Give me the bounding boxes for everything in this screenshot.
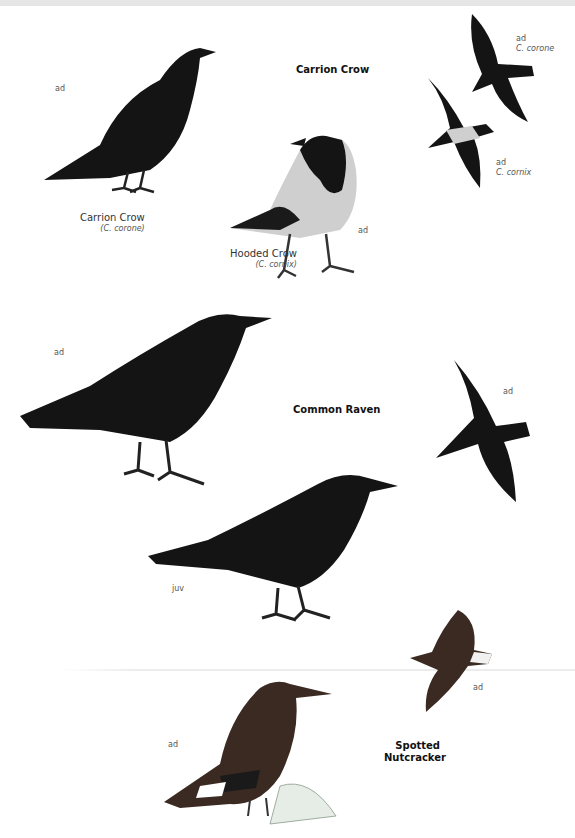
section-title-carrion-crow: Carrion Crow xyxy=(296,64,369,76)
age-label: ad xyxy=(496,158,506,167)
caption-common-name: Hooded Crow xyxy=(230,248,297,259)
age-label: ad xyxy=(503,387,513,397)
title-line-1: Spotted xyxy=(395,740,440,751)
common-raven-juvenile-perched-illustration xyxy=(148,470,398,630)
caption-common-name: Carrion Crow xyxy=(80,212,145,223)
spotted-nutcracker-perched-illustration xyxy=(160,676,340,826)
common-raven-adult-perched-illustration xyxy=(20,308,275,493)
carrion-crow-perched-illustration xyxy=(40,40,220,200)
section-title-spotted-nutcracker: Spotted Nutcracker xyxy=(384,740,440,764)
flight-label-hooded-crow: ad C. cornix xyxy=(496,158,531,178)
flight-label-carrion-crow: ad C. corone xyxy=(516,34,554,54)
caption-scientific-name: (C. corone) xyxy=(80,224,145,234)
hooded-crow-flight-illustration xyxy=(424,78,504,190)
scientific-name: C. corone xyxy=(516,44,554,53)
scientific-name: C. cornix xyxy=(496,168,531,177)
caption-hooded-crow: Hooded Crow (C. cornix) xyxy=(230,248,297,270)
age-label: ad xyxy=(516,34,526,43)
section-title-common-raven: Common Raven xyxy=(293,404,380,416)
top-band xyxy=(0,0,575,6)
age-label: ad xyxy=(358,226,368,236)
caption-scientific-name: (C. cornix) xyxy=(230,260,297,270)
title-line-2: Nutcracker xyxy=(384,752,446,763)
age-label: juv xyxy=(172,584,184,594)
common-raven-flight-illustration xyxy=(434,360,534,505)
age-label: ad xyxy=(473,683,483,693)
spotted-nutcracker-flight-illustration xyxy=(408,610,498,715)
caption-carrion-crow: Carrion Crow (C. corone) xyxy=(80,212,145,234)
